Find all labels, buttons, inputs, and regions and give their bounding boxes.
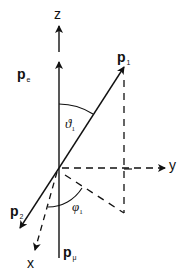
pe-label: pe (17, 67, 30, 83)
z-axis-label: z (54, 7, 61, 21)
p1-subscript: 1 (127, 59, 131, 66)
diagram-canvas (0, 0, 185, 279)
momentum-diagram: z y x pe p1 p2 pμ ϑ1 φ1 (0, 0, 185, 279)
p2-vector (20, 168, 59, 228)
x-axis (35, 172, 57, 250)
pmu-label: pμ (63, 245, 77, 261)
p1-label: p1 (117, 50, 130, 66)
p2-subscript: 2 (20, 213, 24, 220)
theta1-subscript: 1 (71, 125, 75, 133)
x-axis-label: x (27, 256, 34, 270)
phi1-subscript: 1 (79, 208, 83, 216)
theta1-arc (59, 104, 93, 114)
p2-symbol: p (10, 203, 19, 219)
pmu-symbol: p (63, 244, 72, 260)
y-axis-label: y (169, 158, 176, 172)
p1-symbol: p (117, 49, 126, 65)
theta1-label: ϑ1 (65, 117, 75, 133)
phi1-label: φ1 (72, 200, 83, 216)
p2-label: p2 (10, 204, 23, 220)
pmu-subscript: μ (73, 254, 77, 261)
pe-symbol: p (17, 66, 26, 82)
pe-subscript: e (27, 76, 31, 83)
